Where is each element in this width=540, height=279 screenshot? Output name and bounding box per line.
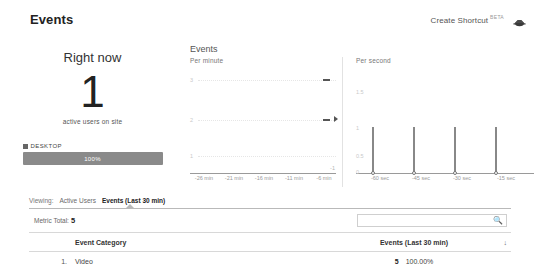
- row-events: 5100.00%: [339, 258, 489, 265]
- xtick: -15 sec: [497, 175, 515, 181]
- table-search[interactable]: 🔍: [357, 214, 507, 227]
- column-event-category[interactable]: Event Category: [75, 239, 339, 246]
- bar: [413, 127, 415, 173]
- chart-edge-markers: [320, 66, 334, 173]
- row-events-count: 5: [395, 258, 399, 265]
- realtime-panel: Right now 1 active users on site DESKTOP…: [0, 38, 540, 193]
- xtick: -30 sec: [453, 175, 471, 181]
- metric-total-label: Metric Total:: [34, 217, 69, 224]
- beta-badge: BETA: [490, 14, 504, 20]
- row-index: 1.: [29, 258, 75, 265]
- page-title: Events: [30, 12, 73, 27]
- page-header: Events Create ShortcutBETA: [0, 0, 540, 38]
- column-events[interactable]: Events (Last 30 min): [339, 239, 489, 246]
- viewing-label: Viewing:: [29, 197, 53, 204]
- metric-total: Metric Total:5: [34, 216, 75, 225]
- table-header-row: Event Category Events (Last 30 min) ↓: [29, 232, 511, 252]
- xtick: -26 min: [195, 175, 213, 181]
- active-users-caption: active users on site: [63, 118, 123, 125]
- ytick: 2: [190, 117, 193, 123]
- ytick: 1: [190, 153, 193, 159]
- viewing-option-active-users[interactable]: Active Users: [59, 197, 95, 204]
- device-bar-desktop: 100%: [23, 152, 163, 165]
- charts-heading: Events: [190, 44, 540, 54]
- ytick: 3: [190, 77, 193, 83]
- xtick: -16 min: [255, 175, 273, 181]
- xtick: -60 sec: [371, 175, 389, 181]
- chart-annotation: -1: [330, 165, 335, 171]
- table-row[interactable]: 1. Video 5100.00%: [29, 252, 511, 270]
- events-table: Metric Total:5 🔍 Event Category Events (…: [29, 208, 511, 270]
- table-toolbar: Metric Total:5 🔍: [29, 209, 511, 232]
- row-event-category[interactable]: Video: [75, 258, 339, 265]
- create-shortcut-button[interactable]: Create ShortcutBETA: [431, 14, 504, 25]
- chart-per-minute-xaxis: -26 min -21 min -16 min -11 min -6 min: [190, 174, 336, 186]
- right-now-block: Right now 1 active users on site DESKTOP…: [0, 38, 185, 193]
- device-bar-percent: 100%: [84, 156, 101, 162]
- bar: [372, 127, 374, 173]
- ytick: 1.5: [356, 89, 364, 95]
- device-breakdown: DESKTOP 100%: [23, 143, 163, 165]
- xtick: -11 min: [285, 175, 303, 181]
- active-users-count: 1: [80, 67, 104, 117]
- viewing-selector: Viewing: Active Users Events (Last 30 mi…: [0, 193, 540, 208]
- chart-per-minute-label: Per minute: [190, 57, 342, 64]
- realtime-events-page: Events Create ShortcutBETA Right now 1 a…: [0, 0, 540, 279]
- legend-swatch-icon: [23, 144, 28, 149]
- ytick: 0.5: [356, 153, 364, 159]
- viewing-option-events[interactable]: Events (Last 30 min): [102, 197, 165, 204]
- xtick: -21 min: [225, 175, 243, 181]
- chart-per-minute-plot: 3 2 1 -1: [190, 66, 336, 174]
- chart-per-minute: Per minute 3 2 1 -1: [185, 57, 343, 187]
- device-legend: DESKTOP: [23, 143, 163, 149]
- chart-per-second: Per second 1.5 1 0.5 0 -60 sec -45 sec: [343, 57, 540, 187]
- share-icon[interactable]: [513, 14, 526, 24]
- bar: [454, 127, 456, 173]
- row-events-percent: 100.00%: [406, 258, 434, 265]
- selected-tab-caret-icon: [125, 204, 135, 209]
- search-icon[interactable]: 🔍: [493, 217, 503, 225]
- xtick: -45 sec: [412, 175, 430, 181]
- right-now-title: Right now: [64, 50, 122, 65]
- search-input[interactable]: [358, 215, 493, 226]
- sort-desc-icon[interactable]: ↓: [489, 239, 511, 246]
- xtick: -6 min: [316, 175, 331, 181]
- chart-per-second-plot: 1.5 1 0.5 0: [356, 66, 534, 174]
- chart-per-second-label: Per second: [356, 57, 540, 64]
- header-actions: Create ShortcutBETA: [431, 14, 526, 25]
- device-legend-label: DESKTOP: [31, 143, 62, 149]
- create-shortcut-label: Create Shortcut: [431, 15, 489, 24]
- chart-per-second-xaxis: -60 sec -45 sec -30 sec -15 sec: [356, 174, 534, 186]
- realtime-charts: Events Per minute 3 2 1: [185, 38, 540, 193]
- metric-total-value: 5: [71, 216, 75, 225]
- bar: [495, 127, 497, 173]
- ytick: 1: [356, 125, 359, 131]
